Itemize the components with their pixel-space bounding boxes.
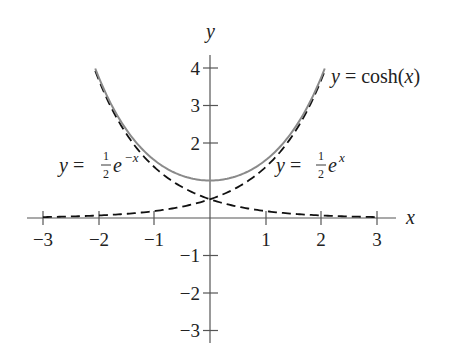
svg-text:1: 1 [318, 149, 324, 163]
y-tick-label: 2 [191, 133, 201, 154]
label-half-exp-neg-x: y = 1 2 e −x [57, 149, 139, 181]
svg-text:2: 2 [103, 167, 109, 181]
x-tick-label: −3 [33, 229, 53, 250]
y-tick-label: 3 [191, 95, 201, 116]
label-cosh: y = cosh(x) [329, 65, 420, 88]
x-tick-labels: −3 −2 −1 1 2 3 [33, 229, 382, 250]
svg-text:1: 1 [103, 149, 109, 163]
svg-text:y =: y = [57, 154, 84, 177]
svg-text:e: e [113, 154, 122, 176]
y-axis-label: y [204, 20, 215, 43]
svg-text:−x: −x [124, 150, 139, 165]
y-tick-labels: 4 3 2 −1 −2 −3 [180, 58, 201, 341]
svg-text:e: e [328, 154, 337, 176]
svg-text:y =: y = [274, 154, 301, 177]
y-tick-label: −2 [180, 283, 200, 304]
x-tick-label: 3 [372, 229, 382, 250]
x-tick-label: −2 [89, 229, 109, 250]
y-tick-label: −3 [180, 320, 200, 341]
svg-text:2: 2 [318, 167, 324, 181]
x-tick-label: −1 [144, 229, 164, 250]
y-tick-label: −1 [180, 245, 200, 266]
x-axis-label: x [405, 206, 415, 228]
y-tick-label: 4 [191, 58, 201, 79]
cosh-chart: −3 −2 −1 1 2 3 4 3 2 −1 −2 −3 y x y = co… [0, 0, 449, 362]
x-tick-label: 1 [261, 229, 271, 250]
svg-text:x: x [338, 150, 345, 165]
x-tick-label: 2 [316, 229, 326, 250]
label-half-exp-x: y = 1 2 e x [274, 149, 345, 181]
